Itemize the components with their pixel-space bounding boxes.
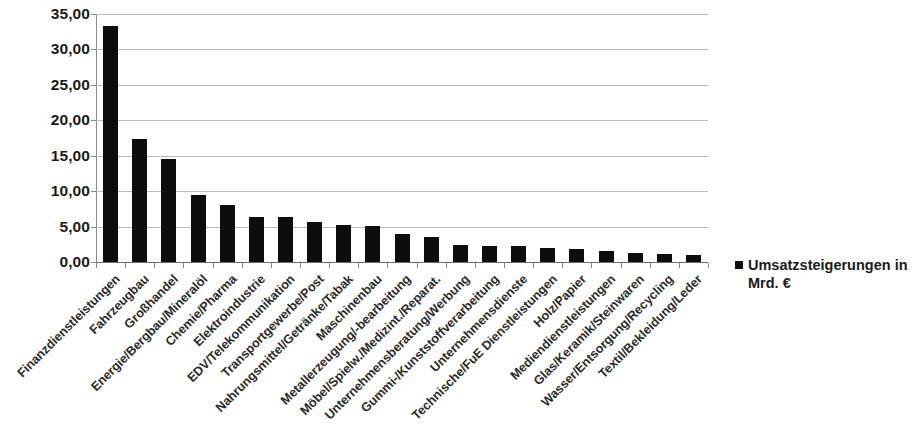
bar[interactable] bbox=[103, 26, 118, 262]
y-axis-tick-mark bbox=[91, 262, 96, 263]
x-axis-tick-mark bbox=[213, 263, 214, 268]
chart-legend: Umsatzsteigerungen in Mrd. € bbox=[735, 256, 915, 292]
bar[interactable] bbox=[249, 217, 264, 262]
x-axis-tick-mark bbox=[504, 263, 505, 268]
x-axis-tick-mark bbox=[271, 263, 272, 268]
y-axis-tick-label: 25,00 bbox=[51, 76, 90, 94]
x-axis-tick-mark bbox=[475, 263, 476, 268]
y-axis-tick-label: 20,00 bbox=[51, 111, 90, 129]
x-axis-tick-mark bbox=[679, 263, 680, 268]
x-axis-tick-mark bbox=[329, 263, 330, 268]
y-axis-tick-label: 35,00 bbox=[51, 5, 90, 23]
x-axis-tick-mark bbox=[154, 263, 155, 268]
bar[interactable] bbox=[365, 226, 380, 262]
y-axis-tick-label: 10,00 bbox=[51, 182, 90, 200]
bar[interactable] bbox=[657, 254, 672, 262]
bar[interactable] bbox=[336, 225, 351, 262]
bar[interactable] bbox=[307, 222, 322, 262]
bar[interactable] bbox=[686, 255, 701, 262]
bar[interactable] bbox=[132, 139, 147, 262]
bar[interactable] bbox=[628, 253, 643, 262]
bar[interactable] bbox=[161, 159, 176, 262]
x-axis-tick-mark bbox=[242, 263, 243, 268]
y-axis-tick-mark bbox=[91, 85, 96, 86]
x-axis-tick-mark bbox=[446, 263, 447, 268]
x-axis-tick-mark bbox=[300, 263, 301, 268]
bar[interactable] bbox=[453, 245, 468, 262]
bar-series bbox=[96, 14, 708, 262]
legend-square-marker-icon bbox=[735, 261, 743, 269]
x-axis-tick-mark bbox=[621, 263, 622, 268]
x-axis-tick-mark bbox=[358, 263, 359, 268]
y-axis-tick-mark bbox=[91, 14, 96, 15]
x-axis-tick-mark bbox=[387, 263, 388, 268]
y-axis-tick-label: 30,00 bbox=[51, 40, 90, 58]
bar[interactable] bbox=[569, 249, 584, 262]
x-axis-tick-mark bbox=[650, 263, 651, 268]
x-axis-tick-mark bbox=[125, 263, 126, 268]
x-axis-tick-mark bbox=[96, 263, 97, 268]
y-axis-labels: 0,005,0010,0015,0020,0025,0030,0035,00 bbox=[0, 0, 90, 446]
x-axis-tick-mark bbox=[591, 263, 592, 268]
y-axis-tick-mark bbox=[91, 227, 96, 228]
bar[interactable] bbox=[540, 248, 555, 262]
bar[interactable] bbox=[482, 246, 497, 262]
y-axis-tick-mark bbox=[91, 49, 96, 50]
y-axis-tick-label: 0,00 bbox=[59, 253, 90, 271]
y-axis-tick-mark bbox=[91, 191, 96, 192]
x-axis-tick-mark bbox=[533, 263, 534, 268]
y-axis-tick-label: 15,00 bbox=[51, 147, 90, 165]
bar[interactable] bbox=[278, 217, 293, 262]
bar[interactable] bbox=[599, 251, 614, 262]
y-axis-tick-label: 5,00 bbox=[59, 218, 90, 236]
bar[interactable] bbox=[220, 205, 235, 262]
x-axis-tick-mark bbox=[417, 263, 418, 268]
legend-entry-label: Umsatzsteigerungen in Mrd. € bbox=[748, 256, 915, 292]
x-axis-tick-mark bbox=[183, 263, 184, 268]
y-axis-tick-mark bbox=[91, 156, 96, 157]
x-axis-tick-mark bbox=[562, 263, 563, 268]
bar[interactable] bbox=[395, 234, 410, 262]
bar[interactable] bbox=[424, 237, 439, 262]
x-axis-tick-mark bbox=[708, 263, 709, 268]
y-axis-tick-mark bbox=[91, 120, 96, 121]
x-axis-ticks bbox=[96, 263, 708, 269]
bar[interactable] bbox=[191, 195, 206, 262]
chart-screenshot: 0,005,0010,0015,0020,0025,0030,0035,00 F… bbox=[0, 0, 921, 446]
bar[interactable] bbox=[511, 246, 526, 262]
